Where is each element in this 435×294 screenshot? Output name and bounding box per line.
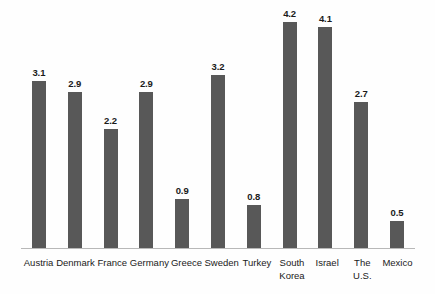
bar-germany — [139, 92, 153, 248]
x-tick-label-sweden: Sweden — [204, 252, 239, 269]
x-tick-label-germany: Germany — [130, 252, 169, 269]
bar-value-label: 2.2 — [93, 115, 129, 126]
bar-group-germany: 2.9 — [128, 0, 164, 248]
bars-layer: 3.1 2.9 2.2 2.9 0.9 3.2 — [21, 0, 415, 248]
bar-france — [104, 129, 118, 248]
bar-value-label: 3.2 — [200, 61, 236, 72]
bar-group-france: 2.2 — [93, 0, 129, 248]
x-tick-label-austria: Austria — [21, 252, 56, 269]
bar-group-israel: 4.1 — [308, 0, 344, 248]
x-tick-label-mexico: Mexico — [380, 252, 415, 269]
bar-israel — [318, 27, 332, 248]
bar-group-denmark: 2.9 — [57, 0, 93, 248]
x-tick-label-france: France — [95, 252, 130, 269]
bar-value-label: 3.1 — [21, 67, 57, 78]
bar-value-label: 0.8 — [236, 191, 272, 202]
bar-value-label: 2.7 — [343, 88, 379, 99]
bar-group-sweden: 3.2 — [200, 0, 236, 248]
plot-area: 3.1 2.9 2.2 2.9 0.9 3.2 — [0, 0, 435, 249]
x-tick-label-the-us: The U.S. — [345, 252, 380, 282]
x-axis-line — [21, 248, 415, 249]
bar-sweden — [211, 75, 225, 248]
x-tick-label-israel: Israel — [310, 252, 345, 269]
bar-group-austria: 3.1 — [21, 0, 57, 248]
x-tick-label-denmark: Denmark — [56, 252, 95, 269]
bar-value-label: 4.2 — [272, 8, 308, 19]
x-tick-label-turkey: Turkey — [239, 252, 274, 269]
bar-group-turkey: 0.8 — [236, 0, 272, 248]
bar-turkey — [247, 205, 261, 248]
bar-value-label: 4.1 — [308, 13, 344, 24]
bar-group-the-us: 2.7 — [343, 0, 379, 248]
bar-austria — [32, 81, 46, 248]
bar-group-mexico: 0.5 — [379, 0, 415, 248]
bar-denmark — [68, 92, 82, 248]
bar-the-us — [354, 102, 368, 248]
bar-group-south-korea: 4.2 — [272, 0, 308, 248]
bar-mexico — [390, 221, 404, 248]
x-tick-label-south-korea: South Korea — [274, 252, 309, 282]
bar-group-greece: 0.9 — [164, 0, 200, 248]
bar-value-label: 2.9 — [57, 78, 93, 89]
x-axis-tick-labels: Austria Denmark France Germany Greece Sw… — [21, 252, 415, 294]
bar-value-label: 0.9 — [164, 185, 200, 196]
bar-value-label: 2.9 — [128, 78, 164, 89]
bar-greece — [175, 199, 189, 248]
bar-value-label: 0.5 — [379, 207, 415, 218]
bar-south-korea — [283, 22, 297, 248]
bar-chart: 3.1 2.9 2.2 2.9 0.9 3.2 — [0, 0, 435, 294]
x-tick-label-greece: Greece — [169, 252, 204, 269]
